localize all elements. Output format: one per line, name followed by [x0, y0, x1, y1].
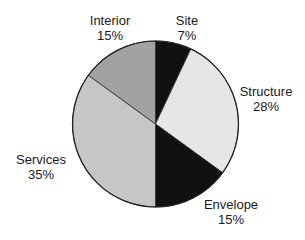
label-structure-pct: 28% [240, 99, 293, 114]
label-interior: Interior 15% [90, 13, 130, 43]
label-envelope-pct: 15% [204, 212, 258, 227]
label-services-name: Services [16, 152, 66, 167]
label-envelope-name: Envelope [204, 197, 258, 212]
label-site-name: Site [176, 13, 198, 28]
label-site: Site 7% [176, 13, 198, 43]
label-site-pct: 7% [176, 28, 198, 43]
pie-chart [0, 0, 305, 240]
label-services: Services 35% [16, 152, 66, 182]
label-services-pct: 35% [16, 167, 66, 182]
label-interior-name: Interior [90, 13, 130, 28]
label-structure: Structure 28% [240, 84, 293, 114]
label-interior-pct: 15% [90, 28, 130, 43]
label-structure-name: Structure [240, 84, 293, 99]
label-envelope: Envelope 15% [204, 197, 258, 227]
